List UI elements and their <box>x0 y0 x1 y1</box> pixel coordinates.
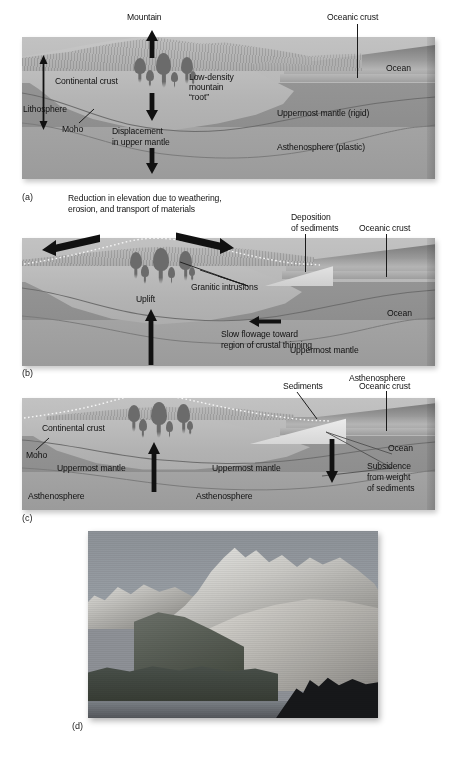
panel-b-label-ocean: Ocean <box>387 308 412 318</box>
panel-c-label-subsidence-line2: from weight <box>367 472 410 482</box>
panel-a: Mountain Oceanic crust Ocean Continental… <box>0 0 454 200</box>
panel-a-moho-leader-line <box>77 108 95 124</box>
panel-a-label-oceanic-crust: Oceanic crust <box>327 12 378 22</box>
panel-a-label-displacement-line1: Displacement <box>112 126 163 136</box>
panel-letter-c: (c) <box>22 513 33 523</box>
panel-c-label-uppermost-mantle-right: Uppermost mantle <box>212 463 281 473</box>
pluton <box>139 419 147 431</box>
pluton <box>177 404 190 423</box>
panel-c-moho-leader-line <box>34 437 50 451</box>
figure-isostasy-mountain-building: Mountain Oceanic crust Ocean Continental… <box>0 0 454 758</box>
panel-a-moho-leader <box>77 108 95 124</box>
panel-d: (d) <box>0 523 454 758</box>
panel-a-displacement-down-arrow-upper <box>145 93 159 121</box>
panel-a-label-low-density-root-line1: Low-density <box>189 72 234 82</box>
panel-a-label-uppermost-mantle: Uppermost mantle (rigid) <box>277 108 369 118</box>
pluton <box>171 72 178 82</box>
panel-c-label-subsidence-line3: of sediments <box>367 483 415 493</box>
panel-c-label-ocean: Ocean <box>388 443 413 453</box>
panel-b-slow-flowage-arrow <box>249 316 281 327</box>
pluton <box>166 421 173 432</box>
panel-a-label-moho: Moho <box>62 124 83 134</box>
panel-c: Sediments Oceanic crust <box>0 373 454 523</box>
panel-a-label-displacement-line2: in upper mantle <box>112 137 170 147</box>
panel-b-label-deposition-line1: Deposition <box>291 212 331 222</box>
panel-b-label-slow-flowage-line2: region of crustal thinning <box>221 340 312 350</box>
panel-c-sediments-leader <box>295 391 319 421</box>
panel-letter-d: (d) <box>72 721 83 731</box>
panel-c-label-subsidence-line1: Subsidence <box>367 461 411 471</box>
panel-a-label-low-density-root-line3: “root” <box>189 92 209 102</box>
panel-d-photograph <box>88 531 378 718</box>
panel-b-deposition-leader <box>305 234 306 272</box>
panel-c-label-moho: Moho <box>26 450 47 460</box>
panel-a-label-lithosphere: Lithosphere <box>23 104 67 114</box>
panel-a-mountain-uplift-arrow <box>145 30 159 58</box>
panel-a-right-side-face <box>427 37 435 179</box>
panel-c-oceanic-crust-leader <box>386 391 387 431</box>
panel-a-label-continental-crust: Continental crust <box>55 76 118 86</box>
panel-c-label-asthenosphere-right: Asthenosphere <box>196 491 253 501</box>
panel-b-label-slow-flowage-line1: Slow flowage toward <box>221 329 298 339</box>
pluton <box>128 405 140 422</box>
panel-b-label-deposition-line2: of sediments <box>291 223 339 233</box>
pluton <box>134 58 146 74</box>
panel-b-label-granitic-intrusions: Granitic intrusions <box>191 282 258 292</box>
panel-c-moho-leader <box>34 437 50 451</box>
panel-c-right-side-face <box>427 398 435 510</box>
panel-c-label-uppermost-mantle-left: Uppermost mantle <box>57 463 126 473</box>
panel-c-label-sediments: Sediments <box>283 381 323 391</box>
photo-grain-overlay <box>88 531 378 718</box>
panel-a-displacement-down-arrow-lower <box>145 148 159 174</box>
pluton <box>151 402 167 425</box>
panel-c-label-asthenosphere-left: Asthenosphere <box>28 491 85 501</box>
panel-c-uplift-arrow <box>147 442 161 492</box>
pluton <box>146 70 154 81</box>
panel-b-erosion-arrow-left <box>42 234 100 256</box>
panel-b-caption-line2: erosion, and transport of materials <box>68 204 195 214</box>
panel-b-right-side-face <box>427 238 435 366</box>
panel-b: Reduction in elevation due to weathering… <box>0 190 454 380</box>
panel-a-label-low-density-root-line2: mountain <box>189 82 224 92</box>
panel-b-uplift-arrow <box>144 309 158 365</box>
panel-a-label-ocean: Ocean <box>386 63 411 73</box>
panel-b-oceanic-crust-leader <box>386 234 387 277</box>
pluton <box>187 421 193 430</box>
panel-b-caption-line1: Reduction in elevation due to weathering… <box>68 193 222 203</box>
panel-a-label-asthenosphere: Asthenosphere (plastic) <box>277 142 365 152</box>
panel-b-label-uplift: Uplift <box>136 294 155 304</box>
panel-a-label-mountain: Mountain <box>127 12 162 22</box>
panel-a-lithosphere-extent-arrow <box>39 55 48 130</box>
panel-c-sediments-leader-line <box>295 391 319 421</box>
panel-c-label-continental-crust: Continental crust <box>42 423 105 433</box>
panel-c-subsidence-arrow <box>325 439 339 483</box>
panel-b-label-oceanic-crust: Oceanic crust <box>359 223 410 233</box>
panel-a-oceanic-crust-leader <box>357 24 358 78</box>
panel-c-label-oceanic-crust: Oceanic crust <box>359 381 410 391</box>
